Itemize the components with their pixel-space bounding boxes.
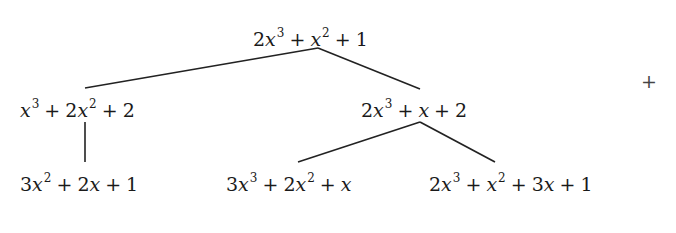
edge-root-left <box>85 48 318 88</box>
edge-right-rightleftchild <box>298 122 420 162</box>
exp: 3 <box>277 26 285 40</box>
node-left-child: 3x2+2x+1 <box>20 175 138 194</box>
op: + <box>56 173 72 195</box>
exp: 2 <box>498 171 506 185</box>
op: + <box>559 173 575 195</box>
term: 1 <box>126 173 138 195</box>
exp: 2 <box>322 26 330 40</box>
term: 2 <box>77 173 89 195</box>
op: + <box>335 28 351 50</box>
op: + <box>511 173 527 195</box>
op: + <box>320 173 336 195</box>
var: x <box>373 99 384 121</box>
stray-plus-symbol: + <box>641 72 657 91</box>
var: x <box>544 173 555 195</box>
node-right: 2x3+x+2 <box>361 101 467 120</box>
var: x <box>238 173 249 195</box>
term: 2 <box>429 173 441 195</box>
var: x <box>20 99 31 121</box>
term: 1 <box>356 28 368 50</box>
op: + <box>262 173 278 195</box>
term: 3 <box>532 173 544 195</box>
exp: 2 <box>44 171 52 185</box>
var: x <box>310 28 321 50</box>
var: x <box>486 173 497 195</box>
node-right-right-child: 2x3+x2+3x+1 <box>429 175 592 194</box>
var: x <box>265 28 276 50</box>
term: 2 <box>253 28 265 50</box>
exp: 2 <box>307 171 315 185</box>
op: + <box>44 99 60 121</box>
op: + <box>434 99 450 121</box>
node-left: x3+2x2+2 <box>20 101 135 120</box>
op: + <box>289 28 305 50</box>
term: 2 <box>123 99 135 121</box>
term: 2 <box>65 99 77 121</box>
op: + <box>105 173 121 195</box>
term: 2 <box>455 99 467 121</box>
term: 2 <box>283 173 295 195</box>
op: + <box>102 99 118 121</box>
exp: 2 <box>89 97 97 111</box>
exp: 3 <box>385 97 393 111</box>
var: x <box>89 173 100 195</box>
var: x <box>77 99 88 121</box>
edge-right-rightrightchild <box>420 122 495 162</box>
term: 3 <box>226 173 238 195</box>
exp: 3 <box>453 171 461 185</box>
var: x <box>32 173 43 195</box>
op: + <box>465 173 481 195</box>
node-right-left-child: 3x3+2x2+x <box>226 175 351 194</box>
var: x <box>418 99 429 121</box>
term: 2 <box>361 99 373 121</box>
node-root: 2x3+x2+1 <box>253 30 368 49</box>
exp: 3 <box>32 97 40 111</box>
exp: 3 <box>250 171 258 185</box>
edge-root-right <box>318 48 420 89</box>
polynomial-tree-diagram: 2x3+x2+1 x3+2x2+2 2x3+x+2 3x2+2x+1 3x3+2… <box>0 0 676 233</box>
op: + <box>397 99 413 121</box>
term: 1 <box>580 173 592 195</box>
var: x <box>341 173 352 195</box>
var: x <box>441 173 452 195</box>
var: x <box>295 173 306 195</box>
term: 3 <box>20 173 32 195</box>
